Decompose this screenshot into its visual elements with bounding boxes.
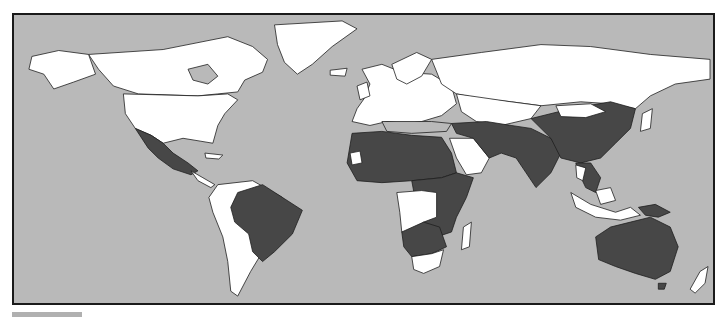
world-map-svg: [14, 15, 713, 303]
region-canada: [89, 37, 268, 96]
region-tasmania: [658, 283, 666, 289]
region-madagascar: [461, 222, 471, 250]
legend-swatch: [12, 312, 82, 317]
region-papua-new-guinea: [638, 204, 670, 217]
region-greenland: [275, 21, 358, 74]
region-new-zealand: [690, 267, 708, 294]
region-mediterranean: [382, 122, 452, 134]
legend: [12, 311, 724, 317]
region-alaska: [29, 51, 96, 89]
region-north-africa: [347, 131, 456, 182]
region-western-sahara: [350, 151, 362, 165]
region-australia: [596, 217, 679, 279]
region-caribbean: [205, 153, 223, 159]
region-iceland: [330, 68, 347, 76]
region-japan: [640, 109, 652, 132]
region-borneo: [596, 188, 616, 205]
region-central-america: [191, 171, 215, 188]
world-map: [12, 13, 715, 305]
